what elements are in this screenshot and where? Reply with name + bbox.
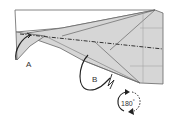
rotation-degrees-label: 180° — [121, 98, 135, 107]
origami-diagram: A B 180° — [0, 0, 181, 121]
flap-b-label: B — [92, 75, 97, 84]
flap-a-label: A — [26, 60, 32, 69]
rotate-arrowhead-icon — [125, 89, 130, 95]
